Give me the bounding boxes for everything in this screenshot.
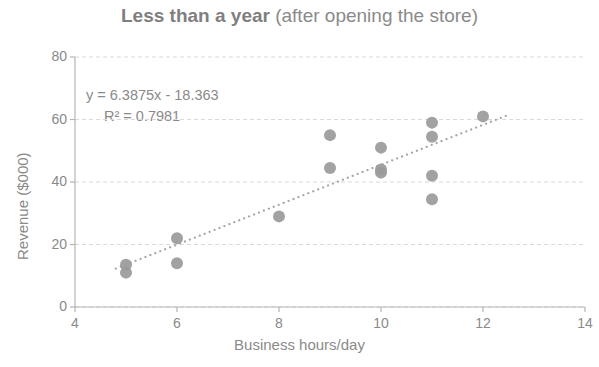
- data-point: [426, 131, 438, 143]
- plot-area: [0, 0, 599, 367]
- trendline-path: [116, 116, 506, 269]
- x-tick-label: 14: [570, 315, 599, 331]
- y-tick-label: 40: [33, 173, 67, 189]
- x-tick-label: 10: [366, 315, 396, 331]
- x-tick-label: 8: [264, 315, 294, 331]
- y-tick-label: 0: [33, 298, 67, 314]
- data-point: [375, 142, 387, 154]
- trendline: [116, 116, 506, 269]
- data-point: [324, 129, 336, 141]
- data-point: [324, 162, 336, 174]
- gridlines: [75, 57, 585, 307]
- y-tick-label: 20: [33, 236, 67, 252]
- y-tick-label: 60: [33, 111, 67, 127]
- data-point: [426, 193, 438, 205]
- data-point: [120, 267, 132, 279]
- x-tick-label: 12: [468, 315, 498, 331]
- data-point: [426, 170, 438, 182]
- data-point: [171, 257, 183, 269]
- x-tick-label: 4: [60, 315, 90, 331]
- axis-lines: [70, 57, 585, 312]
- scatter-chart: Less than a year (after opening the stor…: [0, 0, 599, 367]
- data-point: [171, 232, 183, 244]
- data-point: [477, 110, 489, 122]
- x-tick-label: 6: [162, 315, 192, 331]
- data-point: [273, 210, 285, 222]
- data-points: [120, 110, 489, 278]
- data-point: [375, 167, 387, 179]
- y-tick-label: 80: [33, 48, 67, 64]
- data-point: [426, 117, 438, 129]
